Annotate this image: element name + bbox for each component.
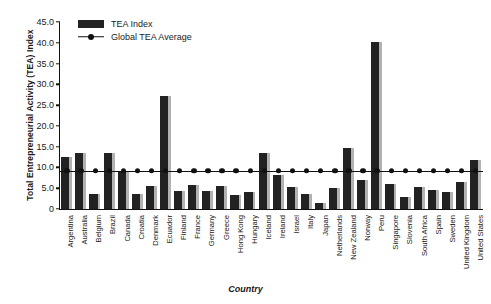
bar [259,153,267,210]
bar [118,172,126,209]
bar-column [412,22,426,209]
x-tick-cell: Israel [285,213,299,279]
x-axis-tick-labels: ArgentinaAustraliaBelgiumBrazilCanadaCro… [59,213,483,279]
bar [104,153,112,209]
x-tick-cell: Iceland [257,213,271,279]
legend-bar-swatch-icon [78,20,104,28]
x-axis-title: Country [0,284,491,294]
x-tick-cell: South Africa [413,213,427,279]
bar-column [187,22,201,209]
x-tick-cell: Netherlands [328,213,342,279]
bar-column [116,22,130,209]
x-tick-cell: France [186,213,200,279]
bar-column [243,22,257,209]
bar-column [314,22,328,209]
bar-column [398,22,412,209]
x-tick-cell: United States [469,213,483,279]
bar-column [328,22,342,209]
x-tick-cell: Singapore [384,213,398,279]
legend-label-global-average: Global TEA Average [111,32,192,42]
bar-column [455,22,469,209]
x-tick-cell: United Kingdom [455,213,469,279]
bar [287,187,295,209]
legend-item-global-average: Global TEA Average [78,30,192,43]
x-tick-cell: New Zealand [342,213,356,279]
bar [273,175,281,209]
bar [146,186,154,209]
bar [216,186,224,209]
x-tick-cell: Japan [314,213,328,279]
bar-column [159,22,173,209]
x-tick-cell: Argentina [59,213,73,279]
bar [357,180,365,209]
bar [188,185,196,209]
x-tick-cell: Hungary [243,213,257,279]
x-tick-cell: Croatia [130,213,144,279]
bar [230,195,238,209]
bar [301,194,309,209]
bar-column [130,22,144,209]
bar [400,197,408,209]
chart-legend: TEA Index Global TEA Average [78,17,192,43]
x-tick-cell: Germany [200,213,214,279]
bar-column [342,22,356,209]
bar [132,194,140,209]
x-tick-cell: Norway [356,213,370,279]
bar [315,203,323,209]
bar-column [215,22,229,209]
bar [75,153,83,209]
x-tick-cell: Canada [116,213,130,279]
bar [244,192,252,209]
bar-column [102,22,116,209]
bar [202,191,210,209]
legend-line-dot-icon [78,32,104,41]
y-axis-title: Total Entrepreneurial Activity (TEA) Ind… [25,15,35,215]
bar [89,194,97,209]
tea-index-bar-chart: Total Entrepreneurial Activity (TEA) Ind… [0,0,491,304]
bar [329,188,337,209]
bar-column [286,22,300,209]
x-tick-cell: Finland [172,213,186,279]
x-tick-cell: Greece [215,213,229,279]
x-tick-cell: Sweden [441,213,455,279]
bar-series [60,22,483,209]
bar [456,182,464,209]
bar-column [173,22,187,209]
bar-column [201,22,215,209]
bar-column [384,22,398,209]
bar-column [88,22,102,209]
x-tick-cell: Hong Kong [229,213,243,279]
bar [174,191,182,209]
x-tick-cell: Australia [73,213,87,279]
bar-column [257,22,271,209]
bar-column [469,22,483,209]
bar [428,190,436,209]
x-tick-label: United States [476,215,485,261]
bar [371,42,379,209]
x-tick-cell: Ecuador [158,213,172,279]
bar [414,187,422,209]
bar-column [60,22,74,209]
bar-column [356,22,370,209]
bar-column [145,22,159,209]
x-tick-cell: Spain [427,213,441,279]
bar-column [271,22,285,209]
bar-column [229,22,243,209]
x-tick-cell: Slovenia [398,213,412,279]
x-tick-cell: Belgium [87,213,101,279]
x-tick-cell: Denmark [144,213,158,279]
bar [385,184,393,209]
bar-column [426,22,440,209]
bar-column [300,22,314,209]
bar-column [441,22,455,209]
bar [343,148,351,209]
bar [61,157,69,209]
legend-label-tea-index: TEA Index [111,19,153,29]
bar [160,96,168,209]
bar [442,192,450,209]
x-tick-cell: Peru [370,213,384,279]
x-tick-cell: Italy [299,213,313,279]
plot-area: 45.040.035.030.025.020.015.010.05.00 [59,22,483,210]
x-tick-cell: Brazil [101,213,115,279]
legend-item-tea-index: TEA Index [78,17,192,30]
